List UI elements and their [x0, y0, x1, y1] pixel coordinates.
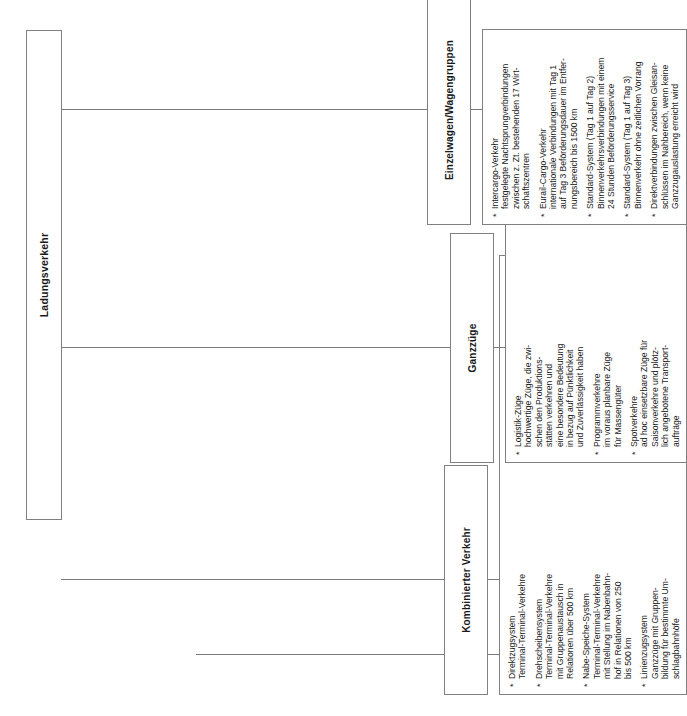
- branch-header-label-kombinierter-verkehr: Kombinierter Verkehr: [461, 527, 472, 633]
- bullet-marker-icon: *: [630, 447, 640, 455]
- connector-spine-to-header: [61, 579, 444, 580]
- bullet-marker-icon: *: [623, 209, 633, 217]
- bullet-list-einzelwagen-wagengruppen: *Intercargo-Verkehr festgelegte Nachtspr…: [490, 39, 679, 217]
- bullet-marker-icon: *: [582, 679, 592, 687]
- bullet-marker-icon: *: [539, 209, 549, 217]
- bullet-item: *Standard-System (Tag 1 auf Tag 2) Binne…: [585, 39, 616, 217]
- bullet-text: Standard-System (Tag 1 auf Tag 3) Binnen…: [622, 39, 643, 209]
- bullet-marker-icon: *: [586, 209, 596, 217]
- connector-header-to-content: [471, 109, 482, 110]
- bullet-text: Standard-System (Tag 1 auf Tag 2) Binnen…: [585, 39, 616, 209]
- branch-content-einzelwagen-wagengruppen: *Intercargo-Verkehr festgelegte Nachtspr…: [482, 29, 687, 225]
- connector-header-to-content: [488, 579, 499, 580]
- branch-header-label-einzelwagen-wagengruppen: Einzelwagen/Wagengruppen: [444, 40, 455, 180]
- connector-spine-to-header: [61, 347, 450, 348]
- bullet-marker-icon: *: [514, 447, 524, 455]
- bullet-marker-icon: *: [535, 679, 545, 687]
- bullet-text: Intercargo-Verkehr festgelegte Nachtspru…: [490, 39, 532, 209]
- branch-header-label-ganzzuege: Ganzzüge: [467, 324, 478, 373]
- root-node-ladungsverkehr[interactable]: Ladungsverkehr: [26, 30, 62, 520]
- bullet-text: Direktverbindungen zwischen Gleisan- sch…: [649, 39, 680, 209]
- branch-header-einzelwagen-wagengruppen[interactable]: Einzelwagen/Wagengruppen: [427, 0, 471, 225]
- branch-header-ganzzuege[interactable]: Ganzzüge: [450, 233, 494, 463]
- bullet-marker-icon: *: [508, 679, 518, 687]
- bullet-marker-icon: *: [593, 447, 603, 455]
- bullet-item: *Direktverbindungen zwischen Gleisan- sc…: [649, 39, 680, 217]
- connector-header-to-content: [494, 347, 505, 348]
- bullet-marker-icon: *: [640, 679, 650, 687]
- bullet-item: *Intercargo-Verkehr festgelegte Nachtspr…: [490, 39, 532, 217]
- bullet-item: *Eurail-Cargo-Verkehr internationale Ver…: [538, 39, 580, 217]
- root-node-label: Ladungsverkehr: [38, 233, 50, 318]
- bullet-marker-icon: *: [650, 209, 660, 217]
- bullet-item: *Standard-System (Tag 1 auf Tag 3) Binne…: [622, 39, 643, 217]
- bullet-text: Eurail-Cargo-Verkehr internationale Verb…: [538, 39, 580, 209]
- connector-spine-to-header: [61, 109, 427, 110]
- bullet-marker-icon: *: [491, 209, 501, 217]
- branch-header-kombinierter-verkehr[interactable]: Kombinierter Verkehr: [444, 465, 488, 695]
